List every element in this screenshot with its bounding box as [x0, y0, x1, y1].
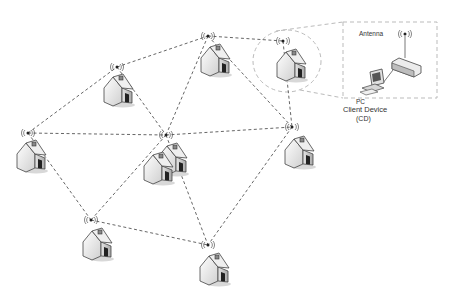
house-icon [104, 74, 135, 108]
antenna-signal-icon [201, 241, 214, 249]
router-icon [392, 58, 421, 77]
pc-label: PC [356, 98, 365, 105]
house-icon [17, 140, 48, 174]
house-icon [285, 136, 316, 170]
antenna-signal-icon [84, 216, 97, 224]
mesh-link [28, 133, 166, 135]
house-icon [201, 44, 232, 78]
mesh-node-top [201, 32, 232, 78]
mesh-link [166, 36, 208, 135]
house-icon [83, 228, 114, 262]
pc-cable [383, 70, 393, 83]
mesh-nodes [17, 32, 316, 287]
mesh-node-topright [276, 37, 308, 83]
mesh-node-topleft [104, 63, 135, 108]
house-icon [200, 253, 231, 287]
pc-icon [360, 69, 384, 95]
mesh-network-diagram: Antenna PC Client Device (CD) [0, 0, 450, 303]
mesh-links [28, 36, 292, 245]
mesh-node-bottomright [200, 241, 231, 287]
mesh-link [208, 36, 283, 41]
mesh-link [166, 127, 292, 135]
mesh-link [208, 127, 292, 245]
antenna-signal-icon [21, 129, 34, 137]
house-icon [277, 49, 308, 83]
mesh-node-bottomleft [83, 216, 114, 262]
detail-box [343, 22, 437, 98]
client-device-label: Client Device [343, 105, 387, 114]
antenna-signal-icon [110, 63, 123, 71]
client-device-detail: Antenna PC Client Device (CD) [343, 30, 421, 123]
mesh-node-left [17, 129, 48, 174]
antenna-label: Antenna [359, 30, 384, 37]
antenna-signal-icon [201, 32, 214, 40]
client-device-abbr: (CD) [356, 115, 371, 123]
antenna-signal-icon [159, 131, 172, 139]
mesh-node-right [285, 123, 316, 170]
mesh-link [117, 36, 208, 67]
